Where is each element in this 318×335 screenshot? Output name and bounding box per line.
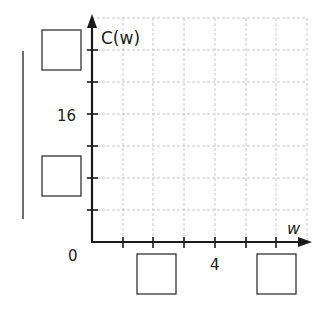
x-axis-arrow-icon bbox=[298, 237, 312, 247]
answer-box-y-top[interactable] bbox=[42, 30, 81, 70]
grid bbox=[92, 18, 307, 242]
answer-box-y-bottom[interactable] bbox=[42, 156, 81, 196]
coordinate-plane: C(w) w 16 0 4 bbox=[0, 0, 318, 335]
y-tick-label-16: 16 bbox=[57, 107, 76, 125]
origin-label: 0 bbox=[68, 247, 78, 265]
answer-box-x-left[interactable] bbox=[137, 254, 176, 294]
x-tick-label-4: 4 bbox=[210, 256, 220, 274]
y-axis-label: C(w) bbox=[101, 28, 140, 48]
answer-box-x-right[interactable] bbox=[257, 254, 296, 294]
y-axis-arrow-icon bbox=[87, 14, 97, 28]
x-axis-label: w bbox=[287, 219, 301, 238]
